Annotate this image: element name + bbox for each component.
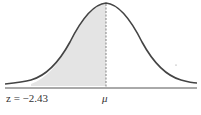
speck bbox=[175, 64, 176, 65]
mean-label: μ bbox=[102, 92, 108, 104]
z-score-label: z = −2.43 bbox=[6, 92, 48, 104]
